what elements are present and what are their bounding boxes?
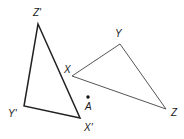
triangle-xyz — [72, 44, 166, 109]
point-a — [86, 95, 89, 98]
label-a: A — [84, 101, 92, 112]
label-z-prime: Z' — [32, 7, 42, 18]
triangle-x-prime-y-prime-z-prime — [24, 24, 80, 118]
label-y-prime: Y' — [8, 108, 18, 119]
geometry-diagram: X Y Z X' Y' Z' A — [0, 0, 184, 139]
label-x: X — [63, 64, 71, 75]
label-x-prime: X' — [83, 122, 94, 133]
label-z: Z — [170, 107, 178, 118]
label-y: Y — [115, 28, 123, 39]
